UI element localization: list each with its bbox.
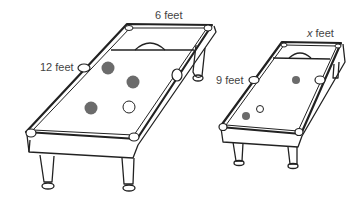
pool-tables-diagram: 6 feet 12 feet x feet 9 feet bbox=[0, 0, 359, 205]
ball-dark bbox=[127, 76, 140, 89]
large-table-length-label: 12 feet bbox=[40, 61, 74, 73]
ball-dark bbox=[242, 112, 250, 120]
large-table-playing-surface bbox=[33, 28, 207, 135]
small-table-width-label: x feet bbox=[306, 27, 334, 39]
large-pool-table bbox=[26, 24, 216, 191]
ball-dark bbox=[292, 76, 300, 84]
small-pool-table bbox=[219, 42, 345, 169]
ball-dark bbox=[102, 62, 115, 75]
large-table-width-label: 6 feet bbox=[155, 9, 183, 21]
large-table-front-legs bbox=[40, 155, 135, 191]
small-table-length-label: 9 feet bbox=[216, 74, 244, 86]
ball-white bbox=[257, 106, 264, 113]
ball-dark bbox=[85, 102, 98, 115]
ball-white bbox=[123, 101, 135, 113]
